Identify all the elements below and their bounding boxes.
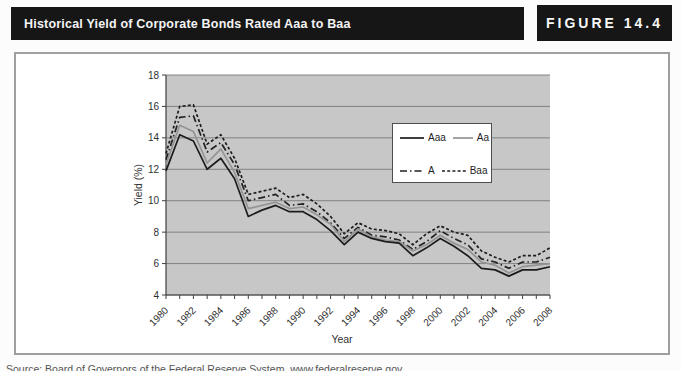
legend: Aaa Aa A Baa [392, 123, 492, 183]
svg-text:1990: 1990 [284, 304, 308, 328]
legend-label-baa: Baa [470, 165, 488, 176]
svg-text:18: 18 [148, 70, 160, 81]
svg-text:16: 16 [148, 101, 160, 112]
svg-text:1998: 1998 [394, 304, 418, 328]
figure-number-badge: FIGURE 14.4 [537, 5, 672, 41]
legend-label-a: A [428, 165, 435, 176]
svg-text:1980: 1980 [147, 304, 171, 328]
chart-area: 4681012141618198019821984198619881990199… [16, 54, 668, 353]
y-axis-title: Yield (%) [132, 164, 144, 206]
svg-text:1986: 1986 [229, 304, 253, 328]
svg-text:1992: 1992 [311, 304, 335, 328]
x-axis-title: Year [331, 333, 353, 345]
figure-container: Historical Yield of Corporate Bonds Rate… [0, 0, 681, 371]
figure-title: Historical Yield of Corporate Bonds Rate… [24, 17, 351, 31]
svg-text:2000: 2000 [421, 304, 445, 328]
svg-text:8: 8 [153, 227, 159, 238]
figure-title-bar: Historical Yield of Corporate Bonds Rate… [11, 7, 524, 40]
legend-label-aaa: Aaa [428, 132, 446, 143]
svg-text:1994: 1994 [339, 304, 363, 328]
chart-svg: 4681012141618198019821984198619881990199… [16, 54, 668, 353]
legend-row-2: A Baa [400, 165, 484, 176]
svg-text:1996: 1996 [366, 304, 390, 328]
legend-label-aa: Aa [477, 132, 489, 143]
svg-text:1988: 1988 [257, 304, 281, 328]
svg-text:2008: 2008 [531, 304, 555, 328]
svg-text:4: 4 [153, 290, 159, 301]
svg-text:1984: 1984 [202, 304, 226, 328]
svg-text:2004: 2004 [476, 304, 500, 328]
chart-panel: 4681012141618198019821984198619881990199… [14, 52, 670, 355]
legend-row-1: Aaa Aa [400, 132, 484, 143]
source-caption: Source: Board of Governors of the Federa… [6, 363, 676, 371]
svg-text:12: 12 [148, 164, 160, 175]
svg-text:10: 10 [148, 195, 160, 206]
legend-line-baa [442, 168, 466, 174]
legend-line-aa [453, 135, 473, 141]
svg-text:6: 6 [153, 258, 159, 269]
svg-text:2002: 2002 [449, 304, 473, 328]
figure-number: FIGURE 14.4 [546, 15, 663, 31]
svg-text:2006: 2006 [503, 304, 527, 328]
svg-text:1982: 1982 [174, 304, 198, 328]
svg-text:14: 14 [148, 132, 160, 143]
legend-line-a [400, 168, 424, 174]
legend-line-aaa [400, 135, 424, 141]
